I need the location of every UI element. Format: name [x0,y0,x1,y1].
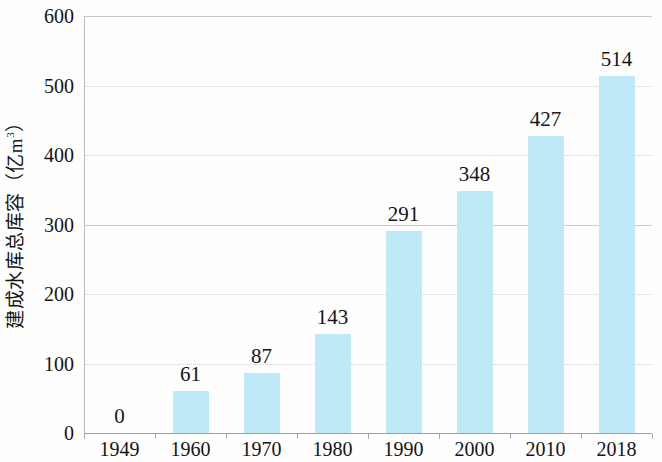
y-axis-tick-label: 0 [64,422,74,445]
y-axis-tick-label: 500 [44,74,74,97]
gridline [84,225,652,226]
bar [315,334,351,433]
y-axis-tick-label: 300 [44,213,74,236]
x-axis-tick [652,434,653,439]
bar-chart: 建成水库总库容（亿m3） 0100200300400500600 0618714… [0,0,662,462]
bar [599,76,635,433]
bar-value-label: 514 [601,47,633,72]
y-axis-tick-label: 100 [44,352,74,375]
bar-value-label: 61 [180,362,201,387]
bar [244,373,280,433]
gridline [84,364,652,365]
x-axis-tick-label: 1949 [100,438,140,461]
gridline [84,16,652,17]
y-axis-title-prefix: 建成水库总库容（亿m [5,137,26,328]
x-axis-tick-label: 2010 [526,438,566,461]
y-axis-title-superscript: 3 [4,131,16,137]
y-axis-tick-labels: 0100200300400500600 [26,0,80,462]
y-axis-tick-label: 200 [44,283,74,306]
y-axis-title: 建成水库总库容（亿m3） [0,0,26,440]
gridline [84,155,652,156]
bar-value-label: 348 [459,162,491,187]
x-axis-tick-label: 1960 [171,438,211,461]
y-axis-tick-label: 600 [44,5,74,28]
bar [528,136,564,433]
x-axis-tick-label: 2018 [597,438,637,461]
gridline [84,86,652,87]
x-axis-tick-labels: 19491960197019801990200020102018 [84,438,652,462]
gridline [84,294,652,295]
x-axis-tick-label: 2000 [455,438,495,461]
bar-value-label: 291 [388,202,420,227]
bar-value-label: 87 [251,344,272,369]
bar [173,391,209,433]
y-axis-title-text: 建成水库总库容（亿m3） [0,112,27,328]
y-axis-line [84,16,85,434]
x-axis-tick-label: 1970 [242,438,282,461]
y-axis-tick-label: 400 [44,144,74,167]
bar-value-label: 427 [530,107,562,132]
plot-area: 06187143291348427514 [84,16,652,433]
x-axis-tick-label: 1980 [313,438,353,461]
y-axis-title-suffix: ） [5,112,26,132]
bar [386,231,422,433]
x-axis-tick-label: 1990 [384,438,424,461]
bar [457,191,493,433]
bar-value-label: 143 [317,305,349,330]
bar-value-label: 0 [114,404,125,429]
